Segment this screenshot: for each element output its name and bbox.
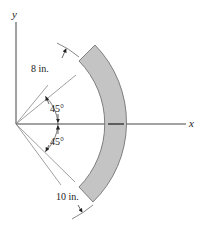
dimension-arc-8in	[57, 43, 79, 57]
radial-line-upper-inner	[16, 85, 48, 124]
dimension-arrow-8in	[62, 49, 66, 58]
radial-line-lower-inner	[16, 124, 61, 185]
dimension-arc-10in	[72, 205, 93, 219]
angle-label-lower: 45°	[50, 136, 64, 147]
dimension-arrow-10in	[78, 205, 82, 212]
curved-member-diagram: y x 8 in. 10 in. 45° 45°	[0, 0, 209, 242]
y-axis-label: y	[11, 8, 17, 20]
x-axis-label: x	[188, 117, 194, 129]
radial-line-lower-outer	[16, 124, 75, 182]
dimension-label-8in: 8 in.	[31, 63, 49, 74]
dimension-label-10in: 10 in.	[56, 191, 79, 202]
angle-label-upper: 45°	[50, 103, 64, 114]
radial-line-upper-outer	[16, 75, 76, 124]
